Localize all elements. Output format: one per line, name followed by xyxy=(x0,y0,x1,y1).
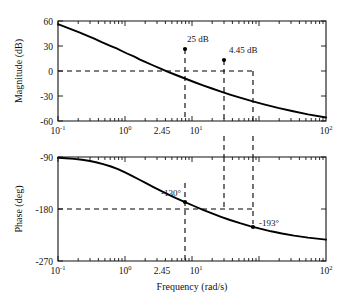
magnitude-xlabel-0p1-exp: -1 xyxy=(60,124,65,131)
phase-xlabel-10-base: 10 xyxy=(190,266,200,276)
phase-xlabel-0p1: 10-1 xyxy=(51,264,66,276)
phase-panel: -90 -180 -270 10-1 100 2.45 101 102 xyxy=(13,153,332,294)
phase-marker-neg193 xyxy=(251,225,255,229)
phase-marker-neg130 xyxy=(183,200,187,204)
magnitude-xlabel-1: 100 xyxy=(119,124,132,136)
magnitude-marker-4p45db xyxy=(222,58,226,62)
phase-xlabel-1-base: 10 xyxy=(119,266,129,276)
annotation-4p45db: 4.45 dB xyxy=(229,45,258,55)
phase-xlabel-1-exp: 0 xyxy=(128,264,131,271)
inter-panel-connectors xyxy=(224,136,253,157)
phase-xlabel-1: 100 xyxy=(119,264,132,276)
magnitude-x-tick-labels: 10-1 100 2.45 101 102 xyxy=(51,124,333,136)
frequency-axis-title: Frequency (rad/s) xyxy=(157,281,228,293)
phase-xlabel-0p1-exp: -1 xyxy=(60,264,65,271)
phase-xlabel-100-base: 10 xyxy=(320,266,330,276)
magnitude-xlabel-0p1: 10-1 xyxy=(51,124,66,136)
phase-curve xyxy=(58,158,326,240)
magnitude-ylabel-neg30: -30 xyxy=(40,92,53,102)
magnitude-ylabel-0: 0 xyxy=(48,67,53,77)
annotation-25db: 25 dB xyxy=(187,34,209,44)
phase-xlabel-100: 102 xyxy=(320,264,333,276)
magnitude-axis-title: Magnitude (dB) xyxy=(13,39,25,103)
magnitude-panel: 60 30 0 -30 -60 10-1 100 2.45 101 102 xyxy=(13,17,332,137)
phase-ylabel-neg270: -270 xyxy=(36,257,54,267)
magnitude-ylabel-60: 60 xyxy=(44,17,54,27)
magnitude-ylabel-neg60: -60 xyxy=(40,117,53,127)
phase-xlabel-2p45: 2.45 xyxy=(154,266,171,276)
magnitude-xlabel-100-exp: 2 xyxy=(329,124,332,131)
phase-ylabel-neg90: -90 xyxy=(40,153,53,163)
magnitude-ylabel-30: 30 xyxy=(44,42,54,52)
bode-plot-canvas: 60 30 0 -30 -60 10-1 100 2.45 101 102 xyxy=(0,0,354,302)
bode-plot-figure: 60 30 0 -30 -60 10-1 100 2.45 101 102 xyxy=(0,0,354,302)
magnitude-xlabel-1-exp: 0 xyxy=(128,124,131,131)
annotation-neg130: -130° xyxy=(161,188,181,198)
phase-axis-title: Phase (deg) xyxy=(13,186,25,233)
phase-xlabel-100-exp: 2 xyxy=(329,264,332,271)
magnitude-xlabel-10-base: 10 xyxy=(190,126,200,136)
magnitude-xlabel-2p45: 2.45 xyxy=(154,126,171,136)
magnitude-xlabel-100: 102 xyxy=(320,124,333,136)
phase-ylabel-neg180: -180 xyxy=(36,205,54,215)
magnitude-xlabel-100-base: 10 xyxy=(320,126,330,136)
phase-xlabel-10-exp: 1 xyxy=(199,264,202,271)
phase-reference-lines xyxy=(58,157,253,261)
magnitude-xlabel-0p1-base: 10 xyxy=(51,126,61,136)
magnitude-xlabel-10-exp: 1 xyxy=(199,124,202,131)
magnitude-xlabel-10: 101 xyxy=(190,124,203,136)
magnitude-xlabel-1-base: 10 xyxy=(119,126,129,136)
phase-x-tick-labels: 10-1 100 2.45 101 102 xyxy=(51,264,333,276)
magnitude-marker-25db xyxy=(183,47,187,51)
phase-xlabel-10: 101 xyxy=(190,264,203,276)
phase-xlabel-0p1-base: 10 xyxy=(51,266,61,276)
annotation-neg193: -193° xyxy=(259,218,279,228)
